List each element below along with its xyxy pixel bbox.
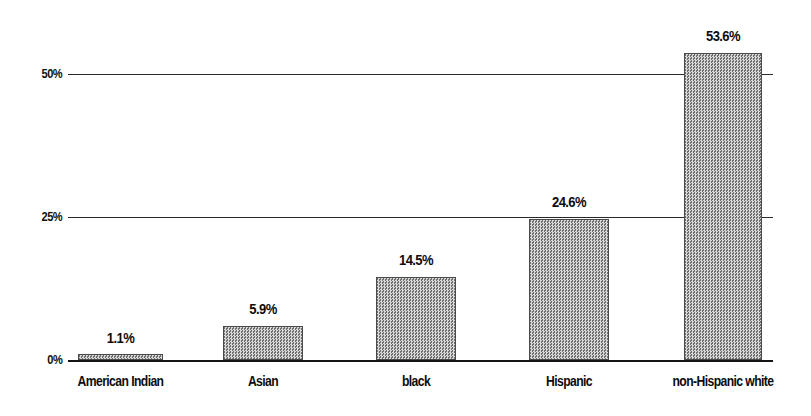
value-label-non-hispanic-white: 53.6% <box>690 28 756 44</box>
bar-non-hispanic-white <box>684 53 762 360</box>
value-label-hispanic: 24.6% <box>535 194 602 210</box>
plot-area: 50% 25% 0% 1.1% 5.9% 14.5% 24.6% 53.6% A… <box>0 0 811 416</box>
value-label-american-indian: 1.1% <box>85 330 156 346</box>
gridline-25 <box>68 217 773 218</box>
bar-black <box>376 277 456 360</box>
bar-chart: 50% 25% 0% 1.1% 5.9% 14.5% 24.6% 53.6% A… <box>0 0 811 416</box>
gridline-50 <box>68 74 773 75</box>
value-label-asian: 5.9% <box>229 301 296 317</box>
value-label-black: 14.5% <box>382 252 449 268</box>
bar-american-indian <box>78 354 163 360</box>
bar-hispanic <box>529 219 609 360</box>
axis-baseline-0 <box>68 360 773 362</box>
x-category-label-asian: Asian <box>213 374 314 389</box>
x-category-label-non-hispanic-white: non-Hispanic white <box>660 374 786 389</box>
y-tick-label-0: 0% <box>47 353 62 367</box>
y-tick-label-25: 25% <box>41 210 62 224</box>
x-category-label-hispanic: Hispanic <box>519 374 620 389</box>
x-category-label-black: black <box>366 374 467 389</box>
x-category-label-american-indian: American Indian <box>68 374 173 389</box>
bar-asian <box>223 326 303 360</box>
y-tick-label-50: 50% <box>41 67 62 81</box>
